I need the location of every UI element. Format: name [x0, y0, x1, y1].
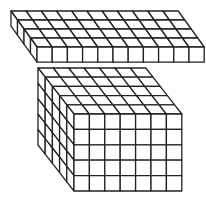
bottom-block-of-cubes	[38, 68, 182, 191]
cube-diagram	[0, 0, 206, 198]
top-slab-of-cubes	[11, 11, 204, 62]
